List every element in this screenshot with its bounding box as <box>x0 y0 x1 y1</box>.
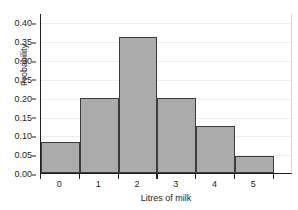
x-axis-tick-label: 4 <box>212 179 217 189</box>
bar-series <box>41 14 291 173</box>
x-axis-title: Litres of milk <box>40 193 292 203</box>
x-axis-tick-label: 0 <box>57 179 62 189</box>
y-axis-tick-mark <box>32 61 36 62</box>
probability-histogram-figure: Probability 0.000.050.100.150.200.250.30… <box>0 0 298 210</box>
y-axis-tick-label: 0.00 <box>14 170 32 179</box>
y-axis-tick-labels: 0.000.050.100.150.200.250.300.350.40 <box>0 14 36 174</box>
x-axis-tick-label: 5 <box>251 179 256 189</box>
y-axis-tick-mark <box>32 99 36 100</box>
x-axis-tick-label: 2 <box>134 179 139 189</box>
y-axis-tick-label: 0.10 <box>14 132 32 141</box>
bar <box>41 142 80 173</box>
plot-area <box>40 14 292 174</box>
x-axis-tick-labels: 012345 <box>40 179 292 193</box>
y-axis-tick-mark <box>32 118 36 119</box>
bar <box>157 98 196 173</box>
bar <box>80 98 119 173</box>
y-axis-tick-mark <box>32 174 36 175</box>
y-axis-tick-label: 0.20 <box>14 94 32 103</box>
y-axis-tick-label: 0.35 <box>14 38 32 47</box>
y-axis-tick-label: 0.15 <box>14 113 32 122</box>
y-axis-tick-label: 0.05 <box>14 151 32 160</box>
bar <box>196 126 235 173</box>
y-axis-tick-mark <box>32 155 36 156</box>
x-axis-tick-label: 3 <box>173 179 178 189</box>
y-axis-tick-mark <box>32 23 36 24</box>
y-axis-tick-label: 0.40 <box>14 19 32 28</box>
bar <box>119 37 158 173</box>
bar <box>235 156 274 173</box>
y-axis-tick-label: 0.30 <box>14 57 32 66</box>
y-axis-tick-label: 0.25 <box>14 75 32 84</box>
x-axis-tick-label: 1 <box>96 179 101 189</box>
y-axis-tick-mark <box>32 136 36 137</box>
y-axis-tick-mark <box>32 80 36 81</box>
y-axis-tick-mark <box>32 42 36 43</box>
